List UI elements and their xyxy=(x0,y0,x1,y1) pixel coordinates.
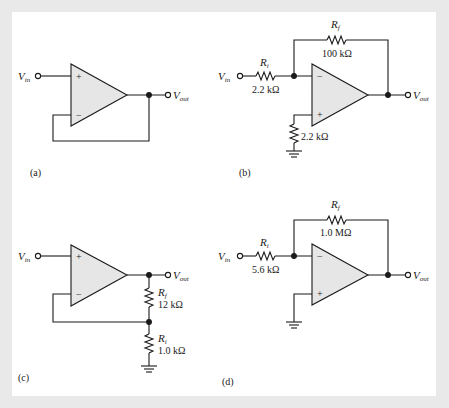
circuit-d: − + Vin Vout Ri 5.6 kΩ Rf 1.0 MΩ (d) xyxy=(218,198,430,388)
output-terminal-a xyxy=(165,92,170,97)
minus-sign-c: − xyxy=(76,289,82,300)
output-terminal-d xyxy=(405,272,410,277)
vin-label-c: Vin xyxy=(18,250,31,264)
caption-c: (c) xyxy=(18,372,29,384)
circuit-c: + − Vin Vout Rf 12 kΩ Ri 1.0 kΩ (c) xyxy=(18,245,190,384)
resistor-rf-c xyxy=(145,288,153,307)
minus-sign-a: − xyxy=(76,110,82,121)
input-terminal-b xyxy=(237,73,242,78)
caption-b: (b) xyxy=(239,167,251,179)
plus-sign-b: + xyxy=(317,109,323,120)
ground-icon-b xyxy=(286,151,302,157)
plus-sign-a: + xyxy=(76,71,82,82)
input-terminal-a xyxy=(35,73,40,78)
output-junction-d xyxy=(386,273,391,278)
circuit-a: + − Vin Vout (a) xyxy=(18,64,190,179)
output-terminal-b xyxy=(405,92,410,97)
plus-sign-c: + xyxy=(76,251,82,262)
rf-value-b: 100 kΩ xyxy=(322,48,352,59)
caption-a: (a) xyxy=(30,167,41,179)
output-junction-b xyxy=(386,93,391,98)
ri-label-b: Ri xyxy=(259,56,269,70)
plus-sign-d: + xyxy=(317,288,323,299)
ri-label-c: Ri xyxy=(157,332,167,346)
rcomp-value-b: 2.2 kΩ xyxy=(301,131,328,142)
rf-label-b: Rf xyxy=(330,18,341,32)
resistor-rcomp-b xyxy=(290,124,298,143)
vout-label-b: Vout xyxy=(413,89,430,103)
rf-label-c: Rf xyxy=(157,286,168,300)
vin-label-a: Vin xyxy=(18,70,31,84)
resistor-ri-b xyxy=(256,72,275,80)
rf-label-d: Rf xyxy=(330,198,341,212)
resistor-rf-d xyxy=(327,216,346,224)
input-terminal-d xyxy=(237,253,242,258)
ground-icon-c xyxy=(141,366,157,372)
ri-value-d: 5.6 kΩ xyxy=(252,264,279,275)
minus-sign-b: − xyxy=(317,71,323,82)
ri-label-d: Ri xyxy=(259,236,269,250)
circuit-b: − + Vin Vout Ri 2.2 kΩ Rf 100 kΩ 2.2 kΩ … xyxy=(218,18,430,179)
ground-icon-d xyxy=(286,322,302,328)
ri-value-b: 2.2 kΩ xyxy=(252,84,279,95)
minus-sign-d: − xyxy=(317,251,323,262)
circuit-diagrams: + − Vin Vout (a) − + Vin Vout xyxy=(0,0,449,408)
rf-value-c: 12 kΩ xyxy=(158,299,183,310)
vin-label-b: Vin xyxy=(218,70,231,84)
rf-value-d: 1.0 MΩ xyxy=(320,227,351,238)
caption-d: (d) xyxy=(222,376,234,388)
input-terminal-c xyxy=(35,253,40,258)
ri-value-c: 1.0 kΩ xyxy=(158,345,185,356)
resistor-rf-b xyxy=(327,36,346,44)
vout-label-c: Vout xyxy=(173,269,190,283)
resistor-ri-d xyxy=(256,252,275,260)
vout-label-d: Vout xyxy=(413,269,430,283)
resistor-ri-c xyxy=(145,334,153,353)
vout-label-a: Vout xyxy=(173,89,190,103)
vin-label-d: Vin xyxy=(218,250,231,264)
output-terminal-c xyxy=(165,272,170,277)
